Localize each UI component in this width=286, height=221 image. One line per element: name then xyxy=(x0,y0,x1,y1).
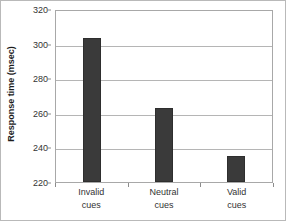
x-axis-category-label: Neutralcues xyxy=(128,186,201,212)
y-axis-tick-label: 300 xyxy=(33,40,48,50)
y-axis-tick-mark xyxy=(47,183,51,184)
y-axis-tick-label: 260 xyxy=(33,109,48,119)
bar[interactable] xyxy=(227,156,245,182)
x-axis-category-label-line1: Neutral xyxy=(150,187,179,197)
x-axis-category-label-line1: Valid xyxy=(227,187,246,197)
x-axis-category-label: Validcues xyxy=(200,186,273,212)
x-axis-category-label-line1: Invalid xyxy=(78,187,104,197)
bar-slot xyxy=(128,11,200,182)
y-axis-tick-mark xyxy=(47,113,51,114)
x-axis-category-label-line2: cues xyxy=(200,199,273,212)
x-axis-tick-mark xyxy=(273,183,274,187)
y-axis-tick-label: 220 xyxy=(33,178,48,188)
y-axis-tick-mark xyxy=(47,44,51,45)
y-axis-tick-mark xyxy=(47,79,51,80)
y-axis-tick-labels: 320300280260240220 xyxy=(23,10,51,183)
y-axis-title-text: Response time (msec) xyxy=(6,46,16,142)
y-axis-tick-label: 280 xyxy=(33,74,48,84)
x-axis-category-label-line2: cues xyxy=(128,199,201,212)
bar[interactable] xyxy=(155,108,173,182)
bar-slot xyxy=(56,11,128,182)
x-axis-category-label: Invalidcues xyxy=(55,186,128,212)
x-axis-category-label-line2: cues xyxy=(55,199,128,212)
bar-chart-figure: Response time (msec) 320300280260240220 … xyxy=(0,0,286,221)
x-axis-category-labels: InvalidcuesNeutralcuesValidcues xyxy=(55,186,273,212)
y-axis-tick-label: 320 xyxy=(33,5,48,15)
y-axis-tick-mark xyxy=(47,148,51,149)
plot-area xyxy=(55,10,273,183)
y-axis-tick-mark xyxy=(47,10,51,11)
y-axis-tick-label: 240 xyxy=(33,143,48,153)
bar-slot xyxy=(200,11,272,182)
y-axis-title: Response time (msec) xyxy=(1,1,21,186)
bar[interactable] xyxy=(83,38,101,182)
bar-series xyxy=(56,11,272,182)
